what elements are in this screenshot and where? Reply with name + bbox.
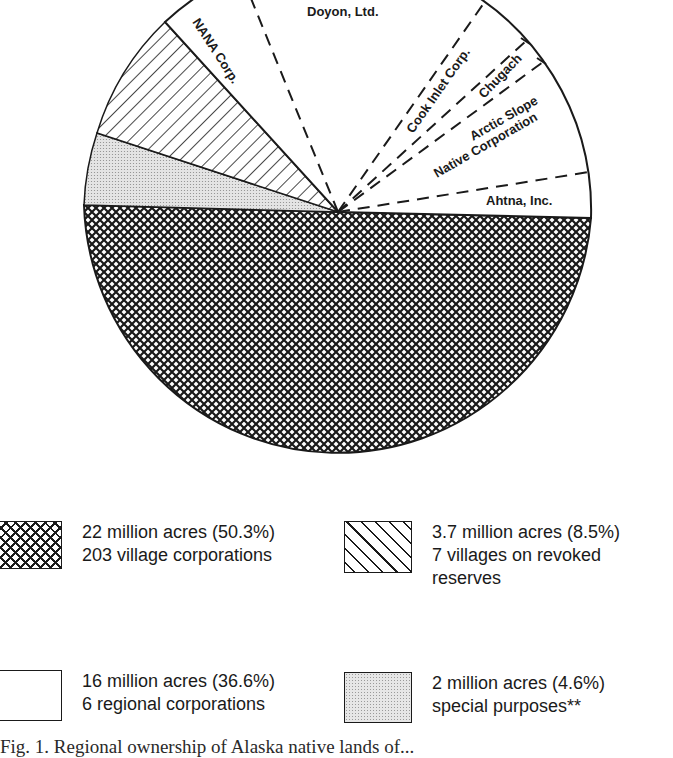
label-doyon: Doyon, Ltd. xyxy=(307,4,379,19)
legend-swatch-crosshatch xyxy=(0,521,62,569)
legend-item-village: 22 million acres (50.3%) 203 village cor… xyxy=(0,521,275,569)
label-ahtna: Ahtna, Inc. xyxy=(486,193,552,208)
legend-swatch-diagonal xyxy=(344,521,412,573)
legend-line: 6 regional corporations xyxy=(82,693,275,716)
legend-line: 7 villages on revoked xyxy=(432,544,620,567)
slice-village-corporations xyxy=(84,205,591,453)
legend-line: 16 million acres (36.6%) xyxy=(82,670,275,693)
legend-line: 2 million acres (4.6%) xyxy=(432,672,605,695)
legend-line: 3.7 million acres (8.5%) xyxy=(432,521,620,544)
legend-line: special purposes** xyxy=(432,695,605,718)
legend-item-special: 2 million acres (4.6%) special purposes*… xyxy=(344,672,605,723)
legend-swatch-stipple xyxy=(344,672,412,723)
legend-line: 203 village corporations xyxy=(82,544,275,567)
legend-swatch-blank xyxy=(0,670,62,721)
legend-item-revoked: 3.7 million acres (8.5%) 7 villages on r… xyxy=(344,521,620,590)
legend-item-regional: 16 million acres (36.6%) 6 regional corp… xyxy=(0,670,275,721)
legend-line: reserves xyxy=(432,567,620,590)
legend-line: 22 million acres (50.3%) xyxy=(82,521,275,544)
figure-caption: Fig. 1. Regional ownership of Alaska nat… xyxy=(0,736,414,758)
